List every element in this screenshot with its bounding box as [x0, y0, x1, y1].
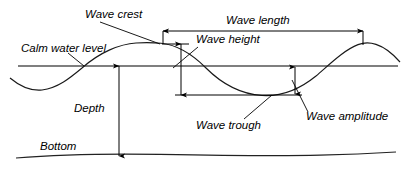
calm-water-level-leader-line: [68, 53, 84, 66]
label-bottom: Bottom: [40, 140, 77, 152]
sea-bottom-line: [16, 152, 396, 158]
label-wave-amplitude: Wave amplitude: [306, 110, 388, 122]
label-depth: Depth: [74, 102, 105, 114]
wave-amplitude-leader-line: [292, 80, 308, 112]
label-calm-water-level: Calm water level: [21, 42, 106, 54]
wave-diagram: Wave crest Calm water level Wave length …: [0, 0, 408, 169]
wave-crest-leader-line: [100, 22, 160, 44]
label-wave-height: Wave height: [196, 33, 261, 45]
wave-trough-leader-line: [244, 95, 272, 119]
label-wave-crest: Wave crest: [85, 8, 143, 20]
wave-diagram-canvas: Wave crest Calm water level Wave length …: [0, 0, 408, 169]
label-wave-length: Wave length: [226, 14, 290, 26]
label-wave-trough: Wave trough: [196, 119, 261, 131]
